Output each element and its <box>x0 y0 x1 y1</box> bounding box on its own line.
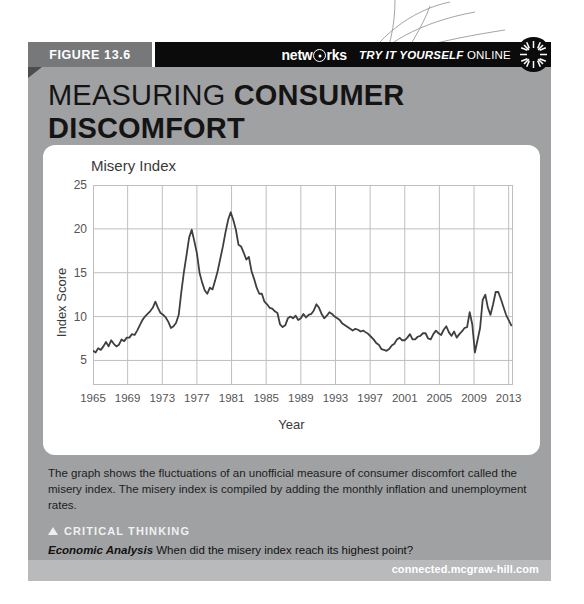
y-axis-tick: 15 <box>74 266 87 280</box>
x-axis-tick: 2005 <box>427 392 453 404</box>
x-axis-tick: 1977 <box>184 392 210 404</box>
networks-logo: netwrks <box>281 47 347 63</box>
circled-o-icon <box>313 49 326 62</box>
critical-thinking-heading: CRITICAL THINKING <box>48 525 190 537</box>
x-axis-tick: 1985 <box>253 392 279 404</box>
x-axis-tick: 1973 <box>149 392 175 404</box>
critical-thinking-label: CRITICAL THINKING <box>64 525 190 537</box>
figure-page: MEASURING CONSUMER DISCOMFORT Misery Ind… <box>0 0 584 604</box>
y-axis-tick: 25 <box>74 178 87 192</box>
brand-text-right: rks <box>327 47 347 63</box>
chart-card: Misery Index Index Score Year 5101520251… <box>43 145 540 455</box>
question-text: When did the misery index reach its high… <box>156 544 413 556</box>
figure-footer-bar: connected.mcgraw-hill.com <box>28 560 551 581</box>
networks-header-bar: netwrks TRY IT YOURSELF ONLINE <box>155 42 551 67</box>
x-axis-tick: 1997 <box>357 392 383 404</box>
figure-number-label: FIGURE 13.6 <box>49 48 131 62</box>
x-axis-tick: 2009 <box>461 392 487 404</box>
x-axis-tick: 1993 <box>323 392 349 404</box>
y-axis-label: Index Score <box>54 243 69 363</box>
y-axis-tick: 5 <box>80 353 87 367</box>
footer-url: connected.mcgraw-hill.com <box>392 563 539 575</box>
figure-caption: The graph shows the fluctuations of an u… <box>48 465 528 513</box>
x-axis-tick: 1989 <box>288 392 314 404</box>
y-axis-tick: 10 <box>74 310 87 324</box>
chart-plot-area: 5101520251965196919731977198119851989199… <box>93 185 513 385</box>
tab-fold-decoration <box>28 67 42 78</box>
online-text: ONLINE <box>467 49 511 61</box>
title-light-part: MEASURING <box>48 79 234 111</box>
triangle-icon <box>48 527 58 535</box>
try-it-italic: TRY IT YOURSELF <box>359 49 464 61</box>
figure-body-panel: MEASURING CONSUMER DISCOMFORT Misery Ind… <box>28 67 551 579</box>
economic-analysis-label: Economic Analysis <box>48 544 153 556</box>
try-it-yourself-online-label: TRY IT YOURSELF ONLINE <box>359 49 511 61</box>
x-axis-tick: 1981 <box>219 392 245 404</box>
title-bold-part: CONSUMER <box>234 79 405 111</box>
x-axis-tick: 1969 <box>115 392 141 404</box>
sunburst-icon <box>516 37 551 72</box>
critical-thinking-question: Economic Analysis When did the misery in… <box>48 543 518 558</box>
sunburst-badge[interactable] <box>516 37 551 72</box>
x-axis-tick: 2013 <box>496 392 522 404</box>
chart-title: Misery Index <box>91 157 176 174</box>
misery-index-line-chart <box>93 185 513 385</box>
brand-text-left: netw <box>281 47 312 63</box>
figure-title: MEASURING CONSUMER DISCOMFORT <box>48 79 518 145</box>
x-axis-tick: 1965 <box>80 392 106 404</box>
figure-number-tab: FIGURE 13.6 <box>28 42 152 67</box>
x-axis-tick: 2001 <box>392 392 418 404</box>
x-axis-label: Year <box>43 417 540 432</box>
y-axis-tick: 20 <box>74 222 87 236</box>
title-line-2: DISCOMFORT <box>48 112 518 145</box>
